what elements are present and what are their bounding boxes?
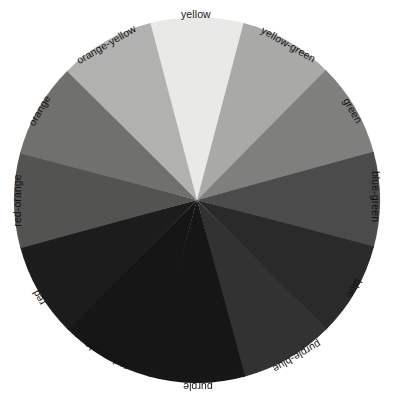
color-wheel-diagram	[0, 0, 394, 407]
wedge-group	[14, 17, 380, 383]
color-wheel-figure: yellowyellow-greengreenblue-greenbluepur…	[0, 0, 394, 407]
